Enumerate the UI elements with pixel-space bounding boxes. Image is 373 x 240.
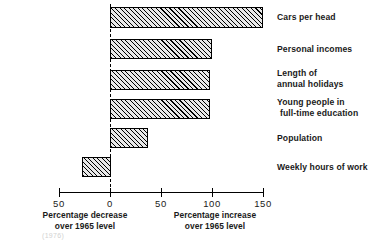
bar-weekly-hours — [82, 157, 111, 177]
bar-chart: Cars per head Personal incomes Length of… — [0, 0, 373, 240]
series-label-full-time-education-line2: full-time education — [280, 108, 358, 119]
bar-population — [110, 128, 148, 148]
axis-caption-right-line2: over 1965 level — [130, 221, 300, 232]
plot-area: Cars per head Personal incomes Length of… — [0, 0, 373, 195]
bar-annual-holidays — [110, 70, 210, 90]
x-axis-tick-100 — [212, 188, 213, 197]
bar-full-time-education — [110, 99, 210, 119]
series-label-personal-incomes: Personal incomes — [277, 44, 352, 55]
x-axis-tick-label-100: 100 — [203, 198, 221, 209]
x-axis-tick-label-150: 150 — [254, 198, 272, 209]
x-axis-tick-150 — [263, 188, 264, 197]
x-axis-tick-label-minus50: 50 — [53, 198, 65, 209]
x-axis-tick-0 — [110, 188, 111, 197]
bar-personal-incomes — [110, 39, 212, 59]
axis-caption-right-line1: Percentage increase — [130, 210, 300, 221]
series-label-annual-holidays-line2: annual holidays — [277, 79, 343, 90]
series-label-weekly-hours: Weekly hours of work — [277, 162, 368, 173]
x-axis-tick-50 — [161, 188, 162, 197]
series-label-cars-per-head: Cars per head — [277, 12, 336, 23]
chart-footnote: (1976) — [42, 232, 64, 239]
x-axis-tick-label-50: 50 — [155, 198, 167, 209]
series-label-annual-holidays-line1: Length of — [277, 68, 317, 79]
series-label-full-time-education-line1: Young people in — [277, 97, 345, 108]
x-axis-tick-minus50 — [59, 188, 60, 197]
x-axis-tick-label-0: 0 — [107, 198, 113, 209]
series-label-population: Population — [277, 133, 322, 144]
bar-cars-per-head — [110, 7, 263, 28]
